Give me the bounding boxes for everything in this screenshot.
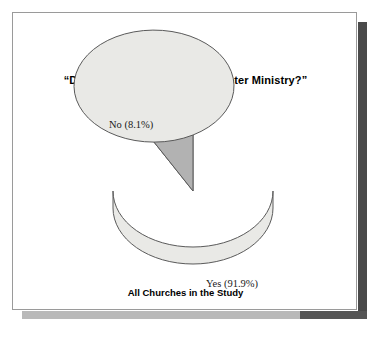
page-shadow-bottom-corner xyxy=(300,311,367,319)
page-shadow-right xyxy=(358,22,367,319)
exhibit-question-title: “Does Your Church Have a Greeter Ministr… xyxy=(13,74,358,86)
slice-label-no: No (8.1%) xyxy=(109,119,153,130)
exhibit-title: Exhibit 5–4 xyxy=(13,55,358,67)
pie-slice-no xyxy=(154,135,193,191)
page-sheet: Exhibit 5–4 “Does Your Church Have a Gre… xyxy=(12,12,357,310)
figure-caption: All Churches in the Study xyxy=(13,287,358,298)
pie-side-wall xyxy=(113,191,273,264)
figure-root: Exhibit 5–4 “Does Your Church Have a Gre… xyxy=(0,0,373,337)
